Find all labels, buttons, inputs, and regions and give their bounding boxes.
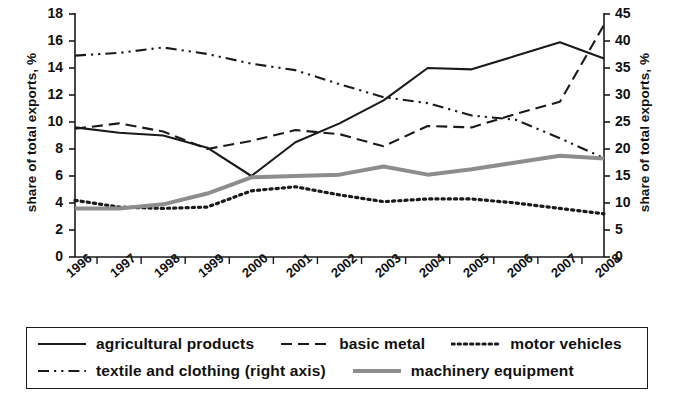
dashdot-glyph (37, 364, 87, 378)
solid-thick-grey-glyph (352, 364, 402, 378)
left-tick-label: 16 (37, 32, 63, 48)
legend-row-top: agricultural productsbasic metalmotor ve… (37, 331, 648, 357)
series-line-0 (75, 42, 604, 176)
left-tick-label: 6 (37, 167, 63, 183)
dotted-glyph (451, 337, 501, 351)
legend-item[interactable]: machinery equipment (352, 362, 574, 380)
right-tick-label: 30 (615, 86, 645, 102)
thick-grey-line-key (352, 364, 402, 378)
left-tick-label: 10 (37, 113, 63, 129)
dashed-glyph (280, 337, 330, 351)
left-tick-label: 4 (37, 194, 63, 210)
left-tick-label: 14 (37, 59, 63, 75)
legend-item-label: basic metal (339, 335, 425, 353)
series-line-1 (75, 25, 604, 149)
legend-row-bottom: textile and clothing (right axis)machine… (37, 358, 600, 384)
left-tick-label: 0 (37, 248, 63, 264)
legend-item[interactable]: textile and clothing (right axis) (37, 362, 326, 380)
legend-item-label: textile and clothing (right axis) (96, 362, 326, 380)
legend-item[interactable]: agricultural products (37, 335, 254, 353)
chart-legend: agricultural productsbasic metalmotor ve… (26, 327, 648, 389)
right-tick-label: 20 (615, 140, 645, 156)
legend-item-label: agricultural products (96, 335, 254, 353)
solid-glyph (37, 337, 87, 351)
series-line-2 (75, 187, 604, 214)
left-tick-label: 12 (37, 86, 63, 102)
left-tick-label: 18 (37, 5, 63, 21)
chart-page: share of total exports, % share of total… (0, 0, 675, 395)
right-tick-label: 5 (615, 221, 645, 237)
right-tick-label: 15 (615, 167, 645, 183)
legend-item[interactable]: motor vehicles (451, 335, 622, 353)
right-tick-label: 25 (615, 113, 645, 129)
legend-item-label: motor vehicles (510, 335, 622, 353)
chart-plot-area: share of total exports, % share of total… (0, 0, 675, 322)
series-line-4 (75, 156, 604, 209)
right-tick-label: 10 (615, 194, 645, 210)
right-tick-label: 40 (615, 32, 645, 48)
dotted-line-key (451, 337, 501, 351)
series-line-3 (75, 47, 604, 158)
solid-line-key (37, 337, 87, 351)
left-tick-label: 8 (37, 140, 63, 156)
right-tick-label: 45 (615, 5, 645, 21)
right-tick-label: 35 (615, 59, 645, 75)
legend-item-label: machinery equipment (411, 362, 574, 380)
dashed-line-key (280, 337, 330, 351)
legend-item[interactable]: basic metal (280, 335, 425, 353)
dashdot-line-key (37, 364, 87, 378)
left-tick-label: 2 (37, 221, 63, 237)
